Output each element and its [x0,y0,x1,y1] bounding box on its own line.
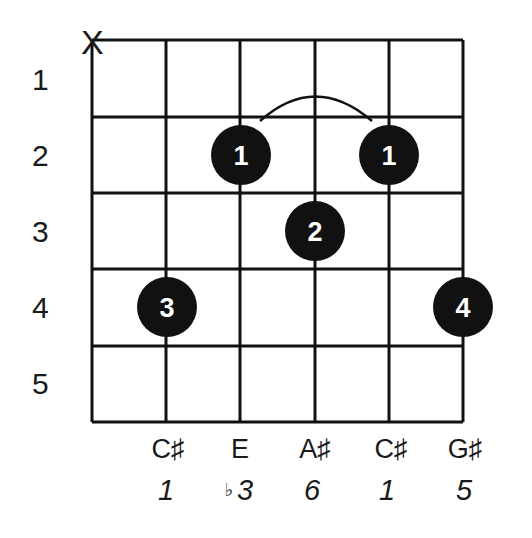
finger-dot-string6-fret4: 4 [433,277,493,337]
finger-number: 1 [381,141,396,171]
finger-number: 1 [233,141,248,171]
flat-symbol: ♭ [225,479,234,500]
frets [92,40,463,422]
finger-dot-string5-fret2: 1 [359,125,419,185]
mute-x-icon: X [81,23,104,61]
interval-label-string2: 1 [158,474,174,506]
interval-label-string6: 5 [456,474,473,506]
finger-dot-string2-fret4: 3 [137,277,197,337]
note-label-string6: G♯ [448,434,483,464]
fret-label-4: 4 [32,291,49,324]
interval-label-string5: 1 [379,474,395,506]
fret-label-5: 5 [32,367,49,400]
note-label-string5: C♯ [375,434,408,464]
note-label-string4: A♯ [299,434,331,464]
fret-label-1: 1 [32,63,49,96]
interval-label-string3: 3 [237,474,253,506]
finger-number: 2 [307,217,322,247]
fret-label-3: 3 [32,215,49,248]
note-label-string2: C♯ [152,434,185,464]
finger-dot-string4-fret3: 2 [285,201,345,261]
finger-number: 3 [159,293,174,323]
finger-dot-string3-fret2: 1 [211,125,271,185]
strings [92,40,463,422]
interval-label-string4: 6 [304,474,321,506]
finger-number: 4 [455,293,470,323]
fret-labels: 1 2 3 4 5 [32,63,49,400]
chord-diagram: 1 2 3 4 5 X 1 1 2 [0,0,532,538]
fret-label-2: 2 [32,139,49,172]
note-labels: C♯ E A♯ C♯ G♯ [152,434,483,464]
note-label-string3: E [231,434,249,464]
interval-labels: 1 ♭ 3 6 1 5 [158,474,473,506]
